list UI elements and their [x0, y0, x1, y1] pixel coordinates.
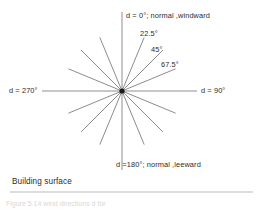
label-angle-67-5-deg: 67.5°: [161, 61, 179, 68]
figure-container: d = 0°; normal ,windward 22.5° 45° 67.5°…: [0, 0, 263, 210]
label-d-90-deg: d = 90°: [201, 87, 225, 94]
label-d-180-deg: d =180°; normal ,leeward: [116, 161, 201, 168]
label-angle-22-5-deg: 22.5°: [140, 30, 158, 37]
label-angle-45-deg: 45°: [151, 46, 162, 53]
ray-225-deg: [81, 91, 122, 132]
ray-135-deg: [122, 91, 163, 132]
figure-caption: Figure 5.14 wind directions d for: [6, 200, 257, 209]
ray-45-deg: [122, 50, 163, 91]
label-building-surface: Building surface: [12, 178, 72, 186]
label-d-0-deg: d = 0°; normal ,windward: [126, 12, 210, 19]
center-node: [119, 88, 124, 93]
label-d-270-deg: d = 270°: [9, 87, 38, 94]
ray-315-deg: [81, 50, 122, 91]
